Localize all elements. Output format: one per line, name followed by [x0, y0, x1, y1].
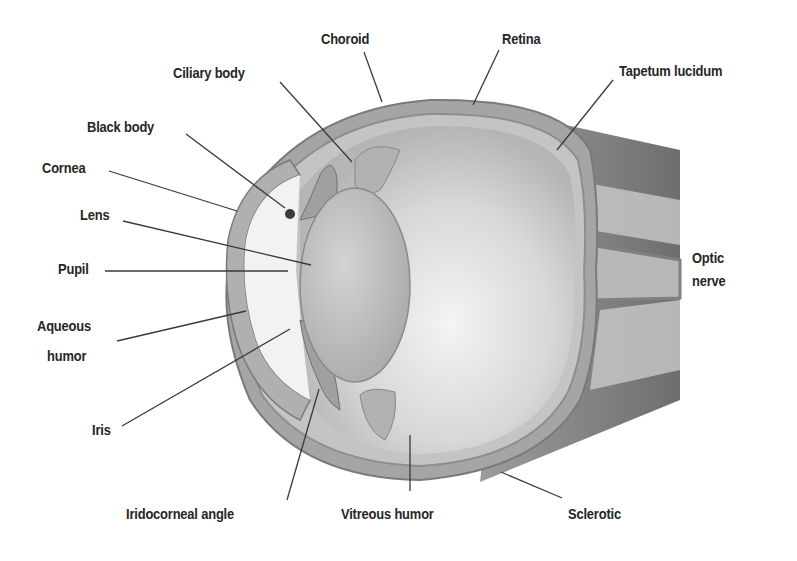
label-lens: Lens — [80, 206, 109, 224]
label-iridocorneal-angle: Iridocorneal angle — [126, 505, 234, 523]
black-body — [285, 209, 295, 219]
label-ciliary-body: Ciliary body — [173, 64, 245, 82]
label-black-body: Black body — [87, 118, 154, 136]
label-optic-nerve-line2: nerve — [692, 272, 726, 290]
label-aqueous-humor-line2: humor — [47, 347, 86, 365]
label-tapetum-lucidum: Tapetum lucidum — [619, 62, 722, 80]
label-retina: Retina — [502, 30, 540, 48]
label-vitreous-humor: Vitreous humor — [341, 505, 434, 523]
label-sclerotic: Sclerotic — [568, 505, 621, 523]
label-iris: Iris — [92, 421, 111, 439]
label-choroid: Choroid — [321, 30, 369, 48]
label-optic-nerve-line1: Optic — [692, 249, 724, 267]
label-aqueous-humor-line1: Aqueous — [37, 317, 91, 335]
eye-illustration — [0, 0, 797, 561]
lens — [300, 188, 410, 382]
label-cornea: Cornea — [42, 159, 85, 177]
label-pupil: Pupil — [58, 260, 89, 278]
